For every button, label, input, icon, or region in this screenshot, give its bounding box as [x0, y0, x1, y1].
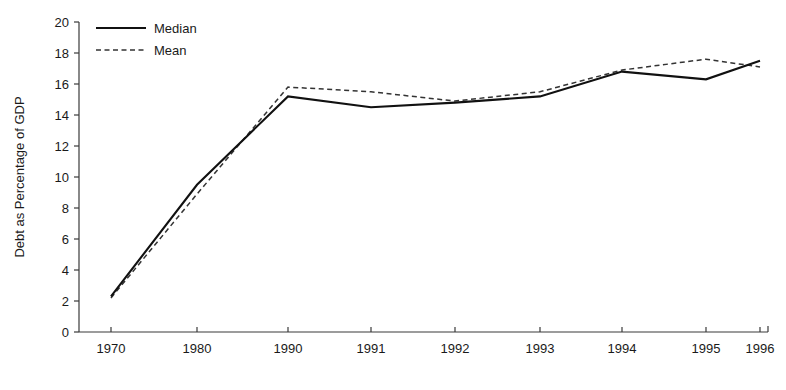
series-line-mean [111, 59, 760, 298]
y-tick-label: 8 [62, 201, 69, 216]
y-tick-label: 6 [62, 232, 69, 247]
y-axis-title: Debt as Percentage of GDP [12, 96, 27, 257]
y-tick-label: 10 [55, 170, 69, 185]
x-tick-label: 1993 [526, 341, 555, 356]
x-tick-label: 1980 [183, 341, 212, 356]
line-chart: 02468101214161820 1970198019901991199219… [0, 0, 786, 390]
x-tick-label: 1994 [608, 341, 637, 356]
y-tick-label: 14 [55, 108, 69, 123]
chart-legend: Median Mean [96, 21, 197, 58]
x-tick-label: 1996 [746, 341, 775, 356]
legend-label-mean: Mean [154, 43, 187, 58]
x-tick-label: 1995 [692, 341, 721, 356]
series-line-median [111, 61, 760, 297]
y-tick-label: 20 [55, 15, 69, 30]
x-tick-label: 1992 [441, 341, 470, 356]
y-tick-label: 18 [55, 46, 69, 61]
y-tick-label: 4 [62, 263, 69, 278]
y-tick-label: 12 [55, 139, 69, 154]
legend-label-median: Median [154, 21, 197, 36]
y-axis-tick-labels: 02468101214161820 [55, 15, 69, 340]
y-axis-ticks [74, 22, 79, 332]
x-tick-label: 1990 [274, 341, 303, 356]
x-tick-label: 1970 [97, 341, 126, 356]
y-tick-label: 2 [62, 294, 69, 309]
chart-container: 02468101214161820 1970198019901991199219… [0, 0, 786, 390]
y-tick-label: 0 [62, 325, 69, 340]
x-axis-ticks [111, 327, 760, 332]
x-axis-tick-labels: 197019801990199119921993199419951996 [97, 341, 775, 356]
x-tick-label: 1991 [357, 341, 386, 356]
y-tick-label: 16 [55, 77, 69, 92]
